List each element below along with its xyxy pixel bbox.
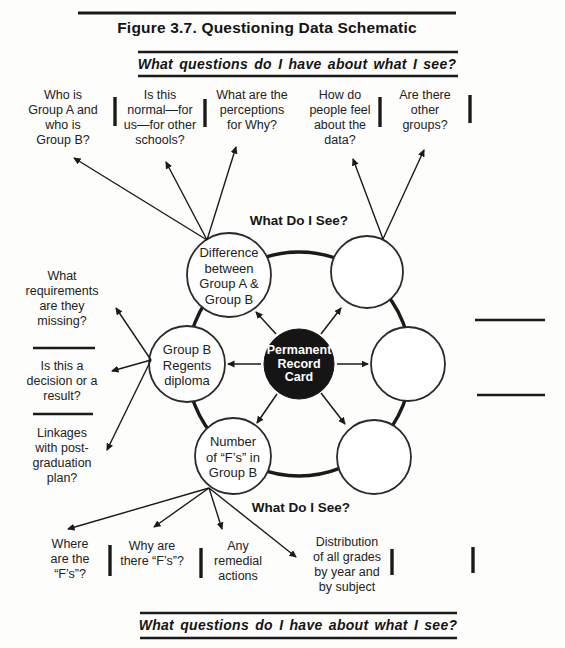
question-bottom-why-fs: Why are there “F’s”?	[107, 539, 197, 569]
question-bottom-where-fs: Where are the “F’s”?	[30, 537, 110, 582]
circle-empty-top-right	[331, 236, 403, 308]
top-banner-text: What questions do I have about what I se…	[97, 56, 497, 72]
center-circle-label: Permanent Record Card	[251, 344, 347, 385]
circle-label-regents: Group B Regents diploma	[132, 342, 242, 389]
question-top-other-groups: Are there other groups?	[375, 88, 475, 133]
question-top-perceptions: What are the perceptions for Why?	[202, 88, 302, 133]
circle-label-difference: Difference between Group A & Group B	[171, 245, 287, 307]
circle-empty-bottom-right	[337, 420, 411, 494]
question-left-linkages: Linkages with post- graduation plan?	[8, 426, 116, 486]
question-left-requirements: What requirements are they missing?	[8, 269, 116, 329]
arrow-q-other-groups	[383, 150, 424, 239]
arrow-to-difference	[256, 312, 276, 334]
bottom-banner-text: What questions do I have about what I se…	[98, 617, 498, 633]
arrow-q-why-fs	[154, 488, 209, 527]
arrow-q-is-this-normal	[166, 162, 207, 240]
arrow-q-remedial	[209, 488, 222, 529]
arrow-to-bottom-right	[321, 393, 345, 424]
figure-title: Figure 3.7. Questioning Data Schematic	[67, 19, 467, 37]
what-do-i-see-label-bottom: What Do I See?	[231, 500, 371, 515]
circle-label-number-fs: Number of “F’s” in Group B	[175, 434, 291, 481]
figure-page: Figure 3.7. Questioning Data Schematic W…	[0, 0, 565, 648]
arrow-to-number-fs	[257, 394, 277, 423]
arrow-q-who-is	[74, 158, 207, 240]
question-arrows	[68, 147, 424, 557]
question-bottom-remedial: Any remedial actions	[198, 539, 278, 584]
arrow-q-where-fs	[68, 488, 209, 529]
question-bottom-distribution: Distribution of all grades by year and b…	[300, 535, 394, 595]
question-top-who-is-group-a: Who is Group A and who is Group B?	[13, 88, 113, 148]
question-top-is-this-normal: Is this normal—for us—for other schools?	[110, 88, 210, 148]
arrow-to-top-right	[321, 308, 341, 334]
question-left-decision: Is this a decision or a result?	[8, 359, 116, 404]
circle-empty-right	[371, 327, 445, 401]
what-do-i-see-label-top: What Do I See?	[229, 213, 369, 228]
